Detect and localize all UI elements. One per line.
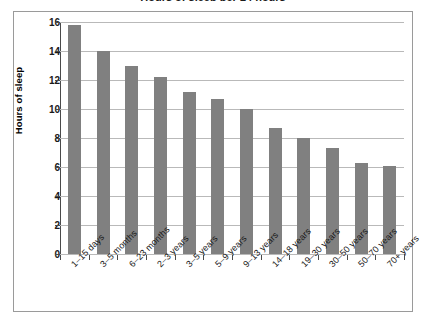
chart-title: Hours of sleep per 24 hours [0, 0, 426, 1]
x-tick-mark [146, 255, 147, 260]
gridline [60, 51, 404, 52]
x-tick-mark [404, 255, 405, 260]
gridline [60, 109, 404, 110]
y-tick-label: 14 [16, 46, 60, 57]
gridline [60, 138, 404, 139]
y-tick-label: 12 [16, 75, 60, 86]
bar[interactable] [211, 99, 224, 254]
y-tick-label: 16 [16, 17, 60, 28]
x-tick-mark [347, 255, 348, 260]
y-tick-label: 4 [16, 191, 60, 202]
y-tick-label: 2 [16, 220, 60, 231]
gridline [60, 167, 404, 168]
x-tick-mark [289, 255, 290, 260]
x-tick-mark [232, 255, 233, 260]
bar[interactable] [240, 109, 253, 254]
gridline [60, 22, 404, 23]
x-tick-mark [203, 255, 204, 260]
x-tick-mark [261, 255, 262, 260]
y-axis-ticks: 0246810121416 [0, 0, 60, 323]
y-tick-label: 10 [16, 104, 60, 115]
chart-figure: Hours of sleep per 24 hours Hours of sle… [0, 0, 426, 323]
y-tick-label: 8 [16, 133, 60, 144]
x-tick-mark [175, 255, 176, 260]
x-tick-mark [60, 255, 61, 260]
gridline [60, 80, 404, 81]
bar[interactable] [97, 51, 110, 254]
x-tick-mark [318, 255, 319, 260]
bar[interactable] [183, 92, 196, 254]
gridline [60, 196, 404, 197]
x-tick-mark [117, 255, 118, 260]
x-tick-mark [89, 255, 90, 260]
gridline [60, 225, 404, 226]
y-tick-label: 6 [16, 162, 60, 173]
bar[interactable] [68, 25, 81, 254]
bar[interactable] [125, 66, 138, 255]
x-tick-mark [375, 255, 376, 260]
y-tick-label: 0 [16, 249, 60, 260]
plot-area [60, 22, 404, 254]
